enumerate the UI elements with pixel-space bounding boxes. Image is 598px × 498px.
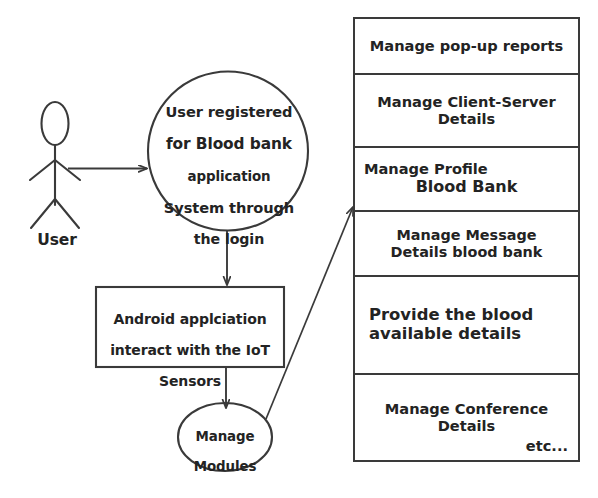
android-process-label: Android applciation interact with the Io… <box>98 296 282 406</box>
manage-modules-label: Manage Modules <box>180 414 270 489</box>
table-row: Manage pop-up reports <box>355 19 578 75</box>
android-process-line-1: Android applciation <box>98 312 282 328</box>
table-row-text: Manage pop-up reports <box>364 38 569 55</box>
main-usecase-line-4: System through <box>150 200 308 216</box>
main-usecase-line-2: for Blood bank <box>150 136 308 153</box>
table-row-text: Manage Client-Server Details <box>364 94 569 128</box>
user-actor <box>30 102 80 228</box>
actor-label: User <box>14 232 100 249</box>
table-row-subtext: Blood Bank <box>364 178 569 196</box>
main-usecase-line-5: the login <box>150 232 308 248</box>
manage-modules-line-1: Manage <box>180 429 270 444</box>
actor-head-icon <box>42 102 69 145</box>
table-row-note: etc... <box>526 438 568 455</box>
main-usecase-line-3: application <box>150 169 308 184</box>
table-row: Manage Profile Blood Bank <box>355 148 578 212</box>
table-row: Manage Message Details blood bank <box>355 212 578 277</box>
main-usecase-line-1: User registered <box>150 104 308 120</box>
main-usecase-label: User registered for Blood bank applicati… <box>150 88 308 264</box>
feature-list-table: Manage pop-up reports Manage Client-Serv… <box>353 17 580 462</box>
android-process-line-2: interact with the IoT <box>98 343 282 359</box>
table-row: Manage Client-Server Details <box>355 75 578 148</box>
manage-modules-line-2: Modules <box>180 459 270 474</box>
table-row: Provide the blood available details <box>355 277 578 375</box>
table-row: Manage Conference Details etc... <box>355 375 578 460</box>
table-row-text: Manage Message Details blood bank <box>364 227 569 260</box>
table-row-text: Provide the blood available details <box>369 306 569 344</box>
use-case-diagram: User User registered for Blood bank appl… <box>0 0 598 498</box>
table-row-text: Manage Conference Details <box>364 401 569 435</box>
table-row-text: Manage Profile <box>364 161 569 178</box>
android-process-line-3: Sensors <box>98 374 282 390</box>
